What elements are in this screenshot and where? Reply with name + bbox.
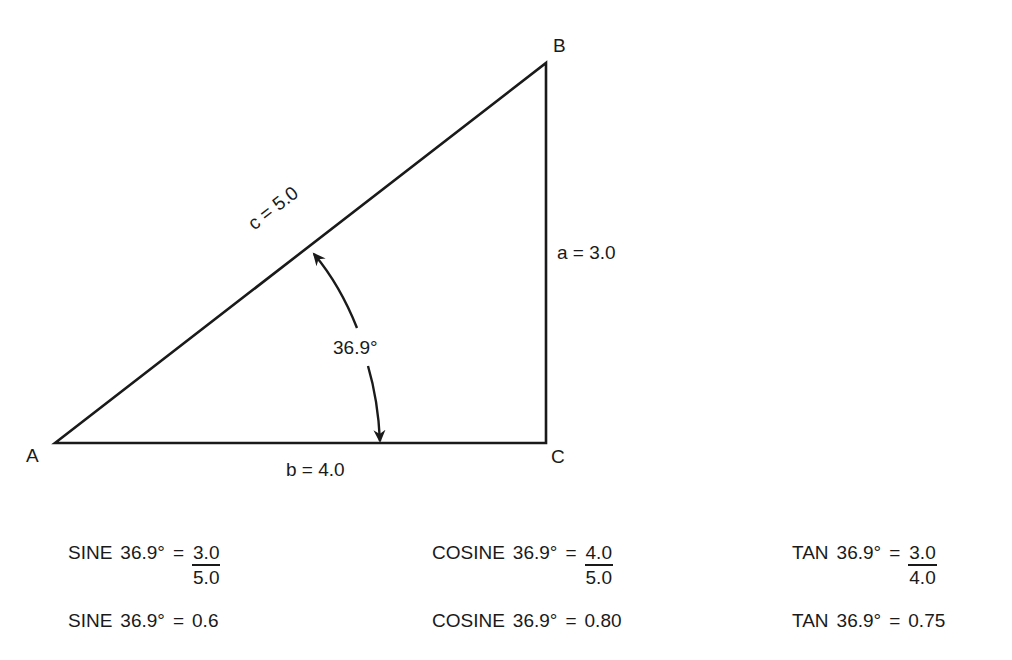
func-name: COSINE (432, 610, 505, 631)
tan-ratio-formula: TAN36.9°=3.04.0 (792, 543, 937, 587)
equals-sign: = (173, 610, 184, 631)
denominator: 4.0 (908, 566, 936, 587)
result-value: 0.80 (585, 610, 622, 631)
func-name: TAN (792, 542, 829, 563)
angle-value: 36.9° (120, 610, 165, 631)
angle-value: 36.9° (513, 610, 558, 631)
denominator: 5.0 (192, 566, 220, 587)
vertex-label-b: B (553, 36, 566, 55)
side-label-a: a = 3.0 (557, 243, 616, 262)
cosine-value-formula: COSINE36.9°=0.80 (432, 611, 622, 630)
angle-arc-arrow-down (368, 366, 380, 441)
angle-value: 36.9° (837, 610, 882, 631)
fraction: 3.05.0 (192, 543, 220, 587)
result-value: 0.75 (908, 610, 945, 631)
angle-label: 36.9° (333, 338, 378, 357)
func-name: COSINE (432, 542, 505, 563)
equals-sign: = (889, 610, 900, 631)
numerator: 3.0 (908, 543, 936, 566)
func-name: SINE (68, 542, 112, 563)
func-name: SINE (68, 610, 112, 631)
angle-arc-arrow-up (314, 254, 357, 328)
func-name: TAN (792, 610, 829, 631)
numerator: 4.0 (585, 543, 613, 566)
vertex-label-c: C (551, 447, 565, 466)
fraction: 3.04.0 (908, 543, 936, 587)
denominator: 5.0 (585, 566, 613, 587)
equals-sign: = (565, 542, 576, 563)
fraction: 4.05.0 (585, 543, 613, 587)
cosine-ratio-formula: COSINE36.9°=4.05.0 (432, 543, 613, 587)
angle-value: 36.9° (837, 542, 882, 563)
numerator: 3.0 (192, 543, 220, 566)
equals-sign: = (565, 610, 576, 631)
sine-ratio-formula: SINE36.9°=3.05.0 (68, 543, 220, 587)
sine-value-formula: SINE36.9°=0.6 (68, 611, 218, 630)
equals-sign: = (173, 542, 184, 563)
angle-value: 36.9° (513, 542, 558, 563)
result-value: 0.6 (192, 610, 218, 631)
equals-sign: = (889, 542, 900, 563)
vertex-label-a: A (26, 446, 39, 465)
side-label-b: b = 4.0 (286, 460, 345, 479)
angle-value: 36.9° (120, 542, 165, 563)
triangle-outline (55, 63, 546, 443)
tan-value-formula: TAN36.9°=0.75 (792, 611, 945, 630)
